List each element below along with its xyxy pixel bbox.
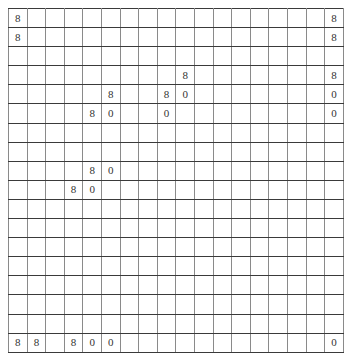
grid-cell[interactable] xyxy=(157,257,176,276)
grid-cell[interactable] xyxy=(46,314,65,333)
grid-cell[interactable] xyxy=(27,238,46,257)
grid-cell[interactable]: 8 xyxy=(325,28,344,47)
grid-cell[interactable] xyxy=(157,295,176,314)
grid-cell[interactable] xyxy=(157,28,176,47)
grid-cell[interactable] xyxy=(306,28,325,47)
grid-cell[interactable] xyxy=(120,238,139,257)
grid-cell[interactable]: 0 xyxy=(157,104,176,123)
grid-cell[interactable] xyxy=(194,180,213,199)
grid-cell[interactable] xyxy=(306,47,325,66)
grid-cell[interactable]: 0 xyxy=(325,85,344,104)
grid-cell[interactable] xyxy=(101,257,120,276)
grid-cell[interactable] xyxy=(27,104,46,123)
grid-cell[interactable] xyxy=(139,295,158,314)
grid-cell[interactable] xyxy=(27,9,46,28)
grid-cell[interactable] xyxy=(213,333,232,352)
grid-cell[interactable] xyxy=(269,85,288,104)
grid-cell[interactable] xyxy=(46,219,65,238)
grid-cell[interactable] xyxy=(139,85,158,104)
grid-cell[interactable] xyxy=(194,314,213,333)
grid-cell[interactable] xyxy=(269,238,288,257)
grid-cell[interactable] xyxy=(325,219,344,238)
grid-cell[interactable] xyxy=(83,257,102,276)
grid-cell[interactable] xyxy=(46,238,65,257)
grid-cell[interactable] xyxy=(306,9,325,28)
grid-cell[interactable] xyxy=(64,295,83,314)
grid-cell[interactable] xyxy=(325,238,344,257)
grid-cell[interactable] xyxy=(101,219,120,238)
grid-cell[interactable] xyxy=(269,66,288,85)
grid-cell[interactable] xyxy=(325,47,344,66)
grid-cell[interactable]: 0 xyxy=(101,161,120,180)
grid-cell[interactable] xyxy=(213,276,232,295)
grid-cell[interactable] xyxy=(269,333,288,352)
grid-cell[interactable] xyxy=(176,219,195,238)
grid-cell[interactable] xyxy=(176,333,195,352)
grid-cell[interactable] xyxy=(269,47,288,66)
grid-cell[interactable] xyxy=(176,9,195,28)
grid-cell[interactable] xyxy=(287,257,306,276)
grid-cell[interactable] xyxy=(139,9,158,28)
grid-cell[interactable] xyxy=(27,219,46,238)
grid-cell[interactable] xyxy=(27,257,46,276)
grid-cell[interactable] xyxy=(9,161,28,180)
grid-cell[interactable] xyxy=(120,123,139,142)
grid-cell[interactable] xyxy=(83,295,102,314)
grid-cell[interactable]: 0 xyxy=(325,333,344,352)
grid-cell[interactable] xyxy=(139,142,158,161)
grid-cell[interactable] xyxy=(64,257,83,276)
grid-cell[interactable] xyxy=(83,85,102,104)
grid-cell[interactable] xyxy=(120,295,139,314)
grid-cell[interactable] xyxy=(157,314,176,333)
grid-cell[interactable] xyxy=(287,123,306,142)
grid-cell[interactable] xyxy=(139,104,158,123)
grid-cell[interactable] xyxy=(287,47,306,66)
grid-cell[interactable] xyxy=(306,219,325,238)
grid-cell[interactable] xyxy=(250,333,269,352)
grid-cell[interactable] xyxy=(64,161,83,180)
grid-cell[interactable] xyxy=(9,238,28,257)
grid-cell[interactable] xyxy=(213,142,232,161)
grid-cell[interactable] xyxy=(194,47,213,66)
grid-cell[interactable] xyxy=(269,28,288,47)
grid-cell[interactable] xyxy=(306,314,325,333)
grid-cell[interactable] xyxy=(232,47,251,66)
grid-cell[interactable] xyxy=(101,47,120,66)
grid-cell[interactable] xyxy=(157,161,176,180)
grid-cell[interactable] xyxy=(287,276,306,295)
grid-cell[interactable] xyxy=(120,276,139,295)
grid-cell[interactable] xyxy=(139,238,158,257)
grid-cell[interactable] xyxy=(176,28,195,47)
grid-cell[interactable] xyxy=(46,9,65,28)
grid-cell[interactable] xyxy=(9,123,28,142)
grid-cell[interactable] xyxy=(120,104,139,123)
grid-cell[interactable] xyxy=(139,66,158,85)
grid-cell[interactable] xyxy=(287,295,306,314)
grid-cell[interactable] xyxy=(306,85,325,104)
grid-cell[interactable] xyxy=(306,333,325,352)
grid-cell[interactable] xyxy=(287,180,306,199)
grid-cell[interactable] xyxy=(139,161,158,180)
grid-cell[interactable] xyxy=(250,85,269,104)
grid-cell[interactable] xyxy=(83,199,102,218)
grid-cell[interactable] xyxy=(120,85,139,104)
grid-cell[interactable] xyxy=(306,161,325,180)
grid-cell[interactable] xyxy=(213,238,232,257)
grid-cell[interactable] xyxy=(306,66,325,85)
grid-cell[interactable] xyxy=(157,47,176,66)
grid-cell[interactable] xyxy=(287,66,306,85)
grid-cell[interactable] xyxy=(213,28,232,47)
grid-cell[interactable] xyxy=(83,9,102,28)
grid-cell[interactable] xyxy=(176,123,195,142)
grid-cell[interactable] xyxy=(64,238,83,257)
grid-cell[interactable] xyxy=(232,180,251,199)
grid-cell[interactable] xyxy=(194,28,213,47)
grid-cell[interactable] xyxy=(64,28,83,47)
grid-cell[interactable] xyxy=(213,85,232,104)
grid-cell[interactable] xyxy=(83,238,102,257)
grid-cell[interactable] xyxy=(139,28,158,47)
grid-cell[interactable] xyxy=(250,257,269,276)
grid-cell[interactable] xyxy=(46,295,65,314)
grid-cell[interactable] xyxy=(83,142,102,161)
grid-cell[interactable] xyxy=(269,104,288,123)
